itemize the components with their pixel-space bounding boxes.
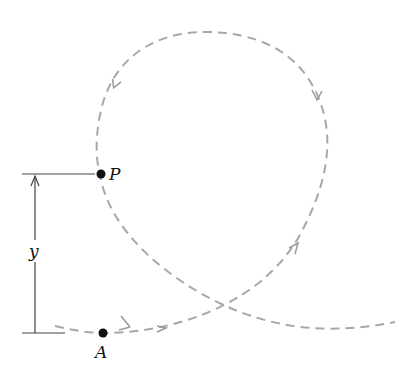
track-path [55, 32, 395, 333]
arrow-icon [119, 316, 130, 330]
label-y: y [28, 241, 39, 261]
point-p [97, 170, 106, 179]
label-a: A [93, 342, 107, 362]
label-p: P [108, 164, 121, 184]
arrow-icon [110, 79, 121, 90]
point-a [99, 329, 108, 338]
loop-diagram: P A y [0, 0, 410, 377]
